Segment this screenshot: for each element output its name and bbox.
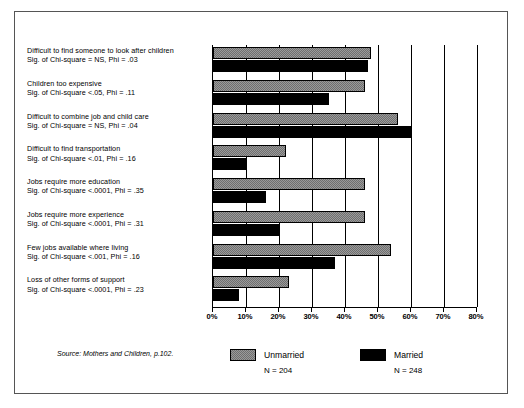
legend-label-married: Married [394, 350, 423, 360]
legend-swatch-unmarried-icon [230, 349, 256, 361]
category-label: Children too expensive [27, 79, 210, 88]
category-label-group: Difficult to combine job and child careS… [27, 112, 210, 131]
category-label-group: Jobs require more experienceSig. of Chi-… [27, 210, 210, 229]
category-stat-label: Sig. of Chi-square <.05, Phi = .11 [27, 88, 210, 97]
category-stat-label: Sig. of Chi-square <.01, Phi = .16 [27, 154, 210, 163]
bar-row [213, 80, 477, 92]
bar-row [213, 289, 477, 301]
bar-row [213, 224, 477, 236]
bar-row [213, 276, 477, 288]
bar-married[interactable] [213, 257, 335, 269]
bar-row [213, 93, 477, 105]
legend-label-unmarried: Unmarried [264, 350, 304, 360]
category-label-group: Loss of other forms of supportSig. of Ch… [27, 275, 210, 294]
x-axis: 0%10%20%30%40%50%60%70%80% [212, 308, 476, 322]
category-label-group: Difficult to find transportationSig. of … [27, 144, 210, 163]
source-note: Source: Mothers and Children, p.102. [57, 350, 173, 357]
bar-married[interactable] [213, 224, 279, 236]
bar-married[interactable] [213, 93, 329, 105]
bar-row [213, 257, 477, 269]
x-tick-label: 70% [435, 312, 450, 321]
bar-row [213, 60, 477, 72]
category-label: Loss of other forms of support [27, 275, 210, 284]
x-tick-label: 40% [336, 312, 351, 321]
bar-row [213, 244, 477, 256]
chart-frame: Difficult to find someone to look after … [14, 11, 508, 394]
bar-row [213, 191, 477, 203]
bar-married[interactable] [213, 191, 266, 203]
category-label: Difficult to find someone to look after … [27, 46, 210, 55]
x-tick-label: 60% [402, 312, 417, 321]
x-tick-label: 0% [207, 312, 218, 321]
category-label-group: Few jobs available where livingSig. of C… [27, 243, 210, 262]
bar-married[interactable] [213, 289, 239, 301]
bar-row [213, 113, 477, 125]
category-label: Jobs require more experience [27, 210, 210, 219]
category-labels: Difficult to find someone to look after … [27, 48, 210, 304]
x-tick-label: 30% [303, 312, 318, 321]
category-stat-label: Sig. of Chi-square = NS, Phi = .03 [27, 55, 210, 64]
x-tick-label: 10% [237, 312, 252, 321]
category-stat-label: Sig. of Chi-square <.001, Phi = .16 [27, 252, 210, 261]
bar-unmarried[interactable] [213, 47, 371, 59]
bar-row [213, 211, 477, 223]
category-label: Difficult to combine job and child care [27, 112, 210, 121]
legend-n-unmarried: N = 204 [264, 366, 292, 375]
bar-row [213, 158, 477, 170]
category-label-group: Difficult to find someone to look after … [27, 46, 210, 65]
x-tick-label: 80% [468, 312, 483, 321]
gridline [477, 45, 478, 307]
legend-swatch-married-icon [360, 349, 386, 361]
bar-row [213, 47, 477, 59]
bar-row [213, 145, 477, 157]
category-label-group: Jobs require more educationSig. of Chi-s… [27, 177, 210, 196]
category-label-group: Children too expensiveSig. of Chi-square… [27, 79, 210, 98]
category-stat-label: Sig. of Chi-square <.0001, Phi = .23 [27, 285, 210, 294]
bar-row [213, 126, 477, 138]
category-stat-label: Sig. of Chi-square <.0001, Phi = .31 [27, 219, 210, 228]
category-label: Difficult to find transportation [27, 144, 210, 153]
bar-married[interactable] [213, 60, 368, 72]
bar-unmarried[interactable] [213, 113, 398, 125]
bar-unmarried[interactable] [213, 276, 289, 288]
x-tick-label: 20% [270, 312, 285, 321]
bar-unmarried[interactable] [213, 211, 365, 223]
category-stat-label: Sig. of Chi-square <.0001, Phi = .35 [27, 186, 210, 195]
plot-area [212, 45, 477, 308]
x-tick-label: 50% [369, 312, 384, 321]
bar-unmarried[interactable] [213, 244, 391, 256]
bar-married[interactable] [213, 126, 411, 138]
chart-legend: Unmarried N = 204 Married N = 248 [230, 348, 480, 382]
category-stat-label: Sig. of Chi-square = NS, Phi = .04 [27, 121, 210, 130]
bar-married[interactable] [213, 158, 246, 170]
legend-n-married: N = 248 [394, 366, 422, 375]
bar-unmarried[interactable] [213, 178, 365, 190]
bar-row [213, 178, 477, 190]
bar-unmarried[interactable] [213, 80, 365, 92]
bar-unmarried[interactable] [213, 145, 286, 157]
category-label: Jobs require more education [27, 177, 210, 186]
category-label: Few jobs available where living [27, 243, 210, 252]
